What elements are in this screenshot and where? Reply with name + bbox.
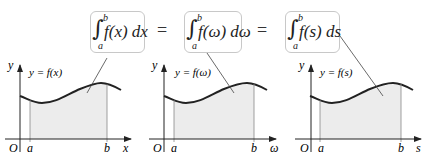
y-axis-label-3: y: [299, 58, 304, 73]
a-label-1: a: [27, 141, 33, 156]
origin-label-3: O: [300, 141, 309, 156]
callout-line-omega: [207, 53, 234, 93]
a-label-3: a: [318, 141, 324, 156]
x-axis-label-2: ω: [270, 141, 278, 156]
y-axis-label-2: y: [152, 58, 157, 73]
curve-label-1: y = f(x): [29, 66, 62, 78]
x-axis-label-1: x: [123, 141, 128, 156]
graph-x: [5, 58, 131, 152]
curve-label-2: y = f(ω): [175, 66, 211, 78]
b-label-3: b: [398, 141, 404, 156]
graph-s: [295, 36, 421, 152]
graphs-canvas: [0, 0, 430, 159]
graph-omega: [149, 53, 276, 152]
y-axis-label-1: y: [8, 58, 13, 73]
origin-label-1: O: [9, 141, 18, 156]
b-label-2: b: [251, 141, 257, 156]
x-axis-label-3: s: [416, 141, 421, 156]
curve-label-3: y = f(s): [320, 66, 352, 78]
origin-label-2: O: [153, 141, 162, 156]
a-label-2: a: [171, 141, 177, 156]
b-label-1: b: [104, 141, 110, 156]
